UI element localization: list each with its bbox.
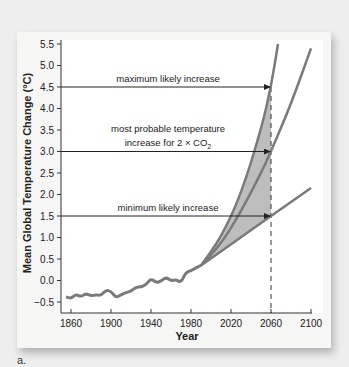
annotation-label: minimum likely increase (118, 202, 219, 213)
y-tick-label: 5.5 (40, 39, 54, 50)
x-tick-label: 1980 (180, 318, 203, 329)
y-tick-label: 3.5 (40, 125, 54, 136)
x-tick-label: 1900 (100, 318, 123, 329)
x-tick-label: 2060 (260, 318, 283, 329)
y-tick-label: 0.0 (40, 275, 54, 286)
y-tick-label: 1.0 (40, 232, 54, 243)
y-tick-label: 0.5 (40, 254, 54, 265)
y-tick-label: 5.0 (40, 60, 54, 71)
y-tick-label: −0.5 (34, 297, 54, 308)
annotation-label: maximum likely increase (116, 73, 219, 84)
x-tick-label: 2100 (300, 318, 323, 329)
annotation-label: most probable temperature (111, 123, 225, 134)
y-tick-label: 2.5 (40, 168, 54, 179)
y-tick-label: 4.5 (40, 82, 54, 93)
y-tick-label: 3.0 (40, 146, 54, 157)
y-tick-label: 2.0 (40, 189, 54, 200)
y-tick-label: 1.5 (40, 211, 54, 222)
y-tick-label: 4.0 (40, 103, 54, 114)
x-tick-label: 2020 (220, 318, 243, 329)
figure-label: a. (17, 354, 26, 366)
x-axis-title: Year (175, 330, 199, 342)
x-tick-label: 1940 (140, 318, 163, 329)
y-axis-title: Mean Global Temperature Change (°C) (21, 72, 33, 273)
temperature-chart: maximum likely increasemost probable tem… (0, 0, 349, 367)
x-tick-label: 1860 (60, 318, 83, 329)
